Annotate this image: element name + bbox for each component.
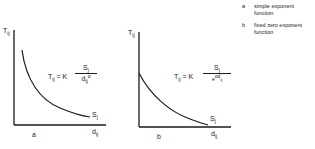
panel-a-y-axis-label: Tij bbox=[3, 27, 10, 35]
formula-equals-k: = K bbox=[55, 73, 68, 80]
panel-b-formula-lhs: Tij = K bbox=[174, 73, 193, 81]
y-label-sub: ij bbox=[7, 30, 9, 36]
legend-text: simple exponent function bbox=[254, 3, 314, 17]
panel-a-x-axis-label: dij bbox=[92, 128, 98, 136]
curve-label-main: S bbox=[92, 111, 97, 118]
den-sup: α bbox=[88, 73, 91, 79]
fraction-bar bbox=[75, 73, 97, 74]
panel-b-letter: b bbox=[157, 133, 161, 140]
legend: a simple exponent function b fixed zero … bbox=[242, 3, 314, 43]
panel-b-formula-fraction: Sj eαdij bbox=[203, 64, 231, 84]
curve-label-main: S bbox=[210, 115, 215, 122]
legend-item-b: b fixed zero exponent function bbox=[242, 22, 314, 38]
legend-key: a bbox=[242, 3, 245, 10]
panel-b-curve-label: Sj bbox=[210, 115, 216, 123]
fraction-denominator: dijα bbox=[75, 75, 97, 83]
legend-text: fixed zero exponent function bbox=[254, 22, 314, 36]
formula-lhs-sub: ij bbox=[52, 76, 54, 82]
x-label-sub: ij bbox=[215, 133, 217, 139]
y-label-sub: ij bbox=[132, 32, 134, 38]
formula-lhs-sub: ij bbox=[178, 76, 180, 82]
x-label-sub: ij bbox=[96, 131, 98, 137]
formula-equals-k: = K bbox=[181, 73, 194, 80]
den-sup-sub: ij bbox=[220, 77, 222, 82]
panel-a-curve-label: Sj bbox=[92, 111, 98, 119]
panel-a-formula-fraction: Sj dijα bbox=[75, 64, 97, 83]
fraction-denominator: eαdij bbox=[203, 75, 231, 84]
fraction-numerator: Sj bbox=[75, 64, 97, 72]
panel-b-y-axis-label: Tij bbox=[128, 29, 135, 37]
legend-item-a: a simple exponent function bbox=[242, 3, 314, 19]
panel-a-curve bbox=[22, 50, 90, 117]
fraction-numerator: Sj bbox=[203, 64, 231, 72]
curve-label-sub: j bbox=[97, 114, 98, 120]
panel-b-x-axis-label: dij bbox=[211, 130, 217, 138]
panel-a-letter: a bbox=[32, 131, 36, 138]
curve-label-sub: j bbox=[215, 118, 216, 124]
panel-a-formula-lhs: Tij = K bbox=[48, 73, 67, 81]
legend-key: b bbox=[242, 22, 245, 29]
